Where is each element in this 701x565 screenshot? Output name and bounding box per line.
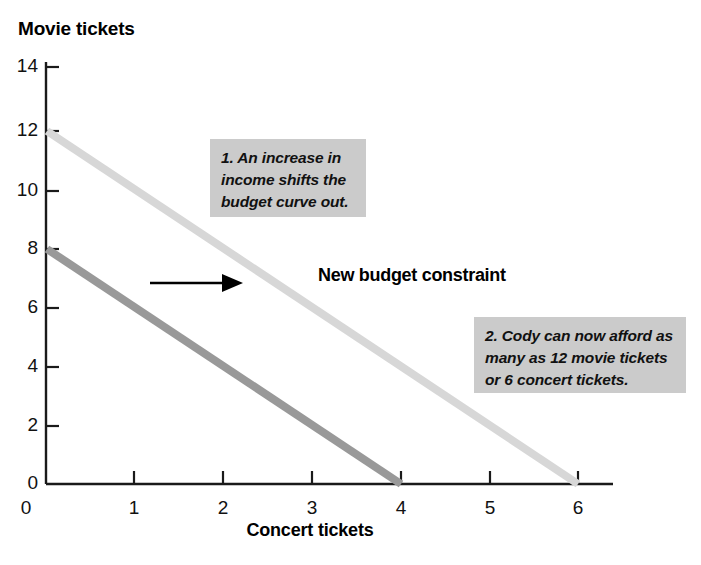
y-tick-label-2: 2 bbox=[4, 414, 38, 436]
x-axis-title: Concert tickets bbox=[0, 520, 620, 541]
x-axis-ticks bbox=[134, 471, 578, 484]
callout-income-shift: 1. An increase in income shifts the budg… bbox=[210, 139, 366, 217]
y-tick-label-8: 8 bbox=[4, 237, 38, 259]
callout-1-line-2: income shifts the bbox=[221, 169, 356, 191]
callout-affordability: 2. Cody can now afford as many as 12 mov… bbox=[474, 317, 686, 393]
shift-arrow-icon bbox=[150, 274, 243, 292]
y-tick-label-6: 6 bbox=[4, 296, 38, 318]
y-tick-label-4: 4 bbox=[4, 355, 38, 377]
callout-2-line-2: many as 12 movie tickets bbox=[485, 347, 678, 369]
x-tick-label-5: 5 bbox=[475, 497, 505, 519]
x-tick-label-3: 3 bbox=[297, 497, 327, 519]
x-tick-label-6: 6 bbox=[563, 497, 593, 519]
x-tick-label-2: 2 bbox=[208, 497, 238, 519]
callout-1-line-3: budget curve out. bbox=[221, 191, 356, 213]
x-tick-label-1: 1 bbox=[119, 497, 149, 519]
y-axis-ticks bbox=[46, 67, 59, 426]
y-tick-label-12: 12 bbox=[4, 119, 38, 141]
y-tick-label-14: 14 bbox=[4, 55, 38, 77]
new-budget-constraint-label: New budget constraint bbox=[318, 265, 506, 286]
y-tick-label-0: 0 bbox=[4, 472, 38, 494]
budget-constraint-chart: Movie tickets bbox=[0, 0, 701, 565]
x-tick-label-0: 0 bbox=[11, 497, 41, 519]
y-tick-label-10: 10 bbox=[4, 179, 38, 201]
callout-2-line-3: or 6 concert tickets. bbox=[485, 369, 678, 391]
callout-1-line-1: 1. An increase in bbox=[221, 147, 356, 169]
x-tick-label-4: 4 bbox=[386, 497, 416, 519]
callout-2-line-1: 2. Cody can now afford as bbox=[485, 325, 678, 347]
